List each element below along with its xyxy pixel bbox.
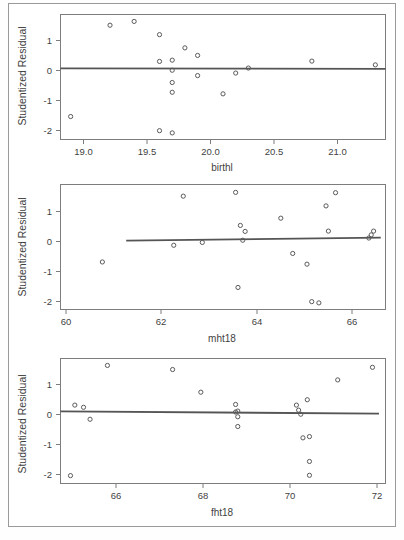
data-point — [310, 59, 314, 63]
panel-fht18-canvas: Studentized Residual 1 0 -1 -2 66 68 — [0, 348, 404, 533]
data-point — [307, 459, 311, 463]
panel-mht18-plot-box — [61, 185, 386, 310]
panel-fht18-fitline-group — [61, 411, 379, 413]
data-point — [238, 223, 242, 227]
data-point — [157, 33, 161, 37]
panel-birthl-ytick-1: 1 — [47, 35, 52, 46]
data-point — [291, 251, 295, 255]
panel-fht18-fit-line — [61, 411, 379, 413]
data-point — [294, 403, 298, 407]
panel-mht18-ytick-neg2: -2 — [44, 296, 52, 307]
panel-mht18: Studentized Residual 1 0 -1 -2 60 62 — [0, 171, 404, 351]
residual-plots-figure: Studentized Residual 1 0 -1 -2 19.0 — [0, 0, 404, 540]
panel-birthl-xtick-21-0: 21.0 — [328, 146, 347, 157]
data-point — [317, 301, 321, 305]
panel-fht18-plot-box — [61, 359, 386, 484]
panel-fht18-xlabel: fht18 — [211, 507, 234, 518]
panel-fht18-ytick-neg2: -2 — [44, 469, 52, 480]
panel-mht18-xtick-64: 64 — [252, 316, 263, 327]
data-point — [333, 191, 337, 195]
data-point — [69, 114, 73, 118]
data-point — [236, 415, 240, 419]
data-point — [196, 53, 200, 57]
data-point — [170, 80, 174, 84]
data-point — [301, 436, 305, 440]
data-point — [373, 63, 377, 67]
data-point — [100, 260, 104, 264]
panel-birthl-xtick-19-0: 19.0 — [74, 146, 93, 157]
data-point — [234, 402, 238, 406]
panel-birthl-ytick-neg2: -2 — [44, 125, 52, 136]
data-point — [310, 300, 314, 304]
panel-birthl-canvas: Studentized Residual 1 0 -1 -2 19.0 — [0, 0, 404, 175]
panel-birthl-fitline-group — [61, 68, 386, 69]
panel-fht18-xtick-66: 66 — [111, 490, 122, 501]
data-point — [199, 390, 203, 394]
panel-birthl-xtick-20-5: 20.5 — [265, 146, 284, 157]
panel-mht18-ytick-0: 0 — [47, 236, 52, 247]
panel-fht18-ytick-neg1: -1 — [44, 439, 52, 450]
panel-birthl-xtick-20-0: 20.0 — [201, 146, 220, 157]
panel-fht18-ytick-1: 1 — [47, 379, 52, 390]
panel-fht18-xtick-72: 72 — [372, 490, 383, 501]
data-point — [181, 194, 185, 198]
panel-fht18-xtick-70: 70 — [285, 490, 296, 501]
panel-fht18-points — [68, 363, 374, 477]
panel-birthl-yaxis-title: Studentized Residual — [16, 26, 28, 125]
data-point — [307, 434, 311, 438]
panel-birthl-ylabel: Studentized Residual — [16, 26, 28, 125]
data-point — [243, 229, 247, 233]
panel-birthl-points — [69, 19, 378, 135]
data-point — [157, 59, 161, 63]
panel-birthl-xtick-19-5: 19.5 — [138, 146, 157, 157]
panel-fht18-yticks: 1 0 -1 -2 — [44, 379, 61, 480]
panel-mht18-xticks: 60 62 64 66 — [61, 310, 358, 328]
data-point — [370, 365, 374, 369]
panel-mht18-ytick-1: 1 — [47, 206, 52, 217]
panel-mht18-ylabel: Studentized Residual — [16, 197, 28, 296]
panel-birthl: Studentized Residual 1 0 -1 -2 19.0 — [0, 0, 404, 175]
panel-mht18-fit-line — [126, 238, 381, 241]
data-point — [326, 229, 330, 233]
data-point — [336, 378, 340, 382]
data-point — [171, 367, 175, 371]
data-point — [297, 408, 301, 412]
panel-fht18-xticks: 66 68 70 72 — [111, 484, 383, 502]
panel-mht18-xlabel: mht18 — [208, 333, 236, 344]
panel-birthl-ytick-0: 0 — [47, 65, 52, 76]
panel-mht18-xtick-66: 66 — [347, 316, 358, 327]
panel-mht18-xtick-60: 60 — [61, 316, 72, 327]
panel-fht18-xtick-68: 68 — [198, 490, 209, 501]
data-point — [305, 262, 309, 266]
panel-fht18-ylabel: Studentized Residual — [16, 374, 28, 473]
panel-mht18-fitline-group — [126, 238, 381, 241]
data-point — [108, 23, 112, 27]
panel-fht18-yaxis-title: Studentized Residual — [16, 374, 28, 473]
data-point — [81, 405, 85, 409]
data-point — [132, 19, 136, 23]
panel-mht18-points — [100, 190, 375, 305]
panel-mht18-yticks: 1 0 -1 -2 — [44, 206, 61, 307]
data-point — [68, 474, 72, 478]
data-point — [236, 285, 240, 289]
data-point — [234, 190, 238, 194]
data-point — [183, 46, 187, 50]
panel-birthl-yticks: 1 0 -1 -2 — [44, 35, 61, 136]
data-point — [372, 229, 376, 233]
panel-birthl-plot-box — [61, 15, 386, 140]
data-point — [172, 243, 176, 247]
data-point — [88, 417, 92, 421]
data-point — [279, 216, 283, 220]
panel-mht18-ytick-neg1: -1 — [44, 266, 52, 277]
data-point — [307, 473, 311, 477]
data-point — [234, 71, 238, 75]
data-point — [73, 403, 77, 407]
data-point — [324, 204, 328, 208]
data-point — [170, 131, 174, 135]
data-point — [105, 363, 109, 367]
panel-birthl-ytick-neg1: -1 — [44, 95, 52, 106]
panel-birthl-xticks: 19.0 19.5 20.0 20.5 21.0 — [74, 140, 347, 158]
panel-fht18-ytick-0: 0 — [47, 409, 52, 420]
data-point — [170, 58, 174, 62]
data-point — [196, 73, 200, 77]
